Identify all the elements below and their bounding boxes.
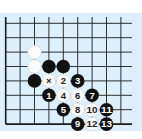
- move-number: 3: [75, 75, 80, 86]
- black-stone: [28, 74, 42, 88]
- go-board-diagram: ×23146758101191213: [0, 0, 142, 139]
- mark-x-icon: ×: [46, 75, 52, 86]
- move-number: 2: [61, 75, 66, 86]
- black-stone: 5: [57, 103, 71, 117]
- black-stone: 7: [85, 89, 99, 103]
- move-number: 5: [61, 104, 67, 115]
- move-number: 6: [75, 90, 80, 101]
- black-stone: 11: [100, 103, 114, 117]
- stones-layer: ×23146758101191213: [28, 45, 114, 131]
- black-stone: 13: [100, 117, 114, 131]
- move-number: 13: [101, 119, 112, 129]
- move-number: 12: [87, 119, 98, 129]
- white-stone: 12: [85, 117, 99, 131]
- move-number: 11: [101, 105, 112, 115]
- move-number: 8: [75, 104, 80, 115]
- move-number: 9: [75, 118, 80, 129]
- white-stone: 6: [71, 89, 85, 103]
- black-stone: 1: [42, 89, 56, 103]
- black-stone: 9: [71, 117, 85, 131]
- black-stone: 3: [71, 74, 85, 88]
- white-stone: [28, 60, 42, 74]
- white-stone: ×: [42, 74, 56, 88]
- move-number: 7: [89, 90, 94, 101]
- black-stone: [42, 60, 56, 74]
- white-stone: 10: [85, 103, 99, 117]
- move-number: 4: [61, 90, 67, 101]
- black-stone: [57, 60, 71, 74]
- white-stone: 2: [57, 74, 71, 88]
- white-stone: [28, 45, 42, 59]
- white-stone: 4: [57, 89, 71, 103]
- move-number: 1: [46, 90, 52, 101]
- white-stone: 8: [71, 103, 85, 117]
- move-number: 10: [87, 105, 98, 115]
